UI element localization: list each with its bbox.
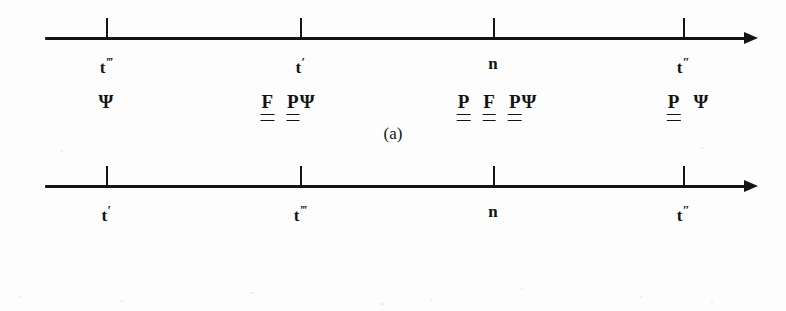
time-point-prime: ″ [682,54,689,69]
formula-symbol: Ψ [522,92,537,111]
operator-symbol-underlined: P [287,92,299,111]
axis-tick [683,18,685,38]
panel-caption-a: (a) [384,124,403,144]
time-point-prime: ′ [107,202,110,217]
axis-arrow-icon-a [744,32,758,44]
operator-symbol-underlined: P [458,92,470,111]
axis-tick [106,18,108,38]
operator-symbol-underlined: P [509,92,521,111]
time-point-prime: ‴ [299,202,306,217]
axis-tick [683,166,685,186]
panel-a: t‴t′nt″ ΨFPΨPFPΨPΨ (a) [0,0,786,155]
time-point-label: t″ [677,203,689,224]
time-point-label: t‴ [100,55,112,76]
formula-symbol: Ψ [300,92,315,111]
time-point-label: t″ [677,55,689,76]
operator-symbol-underlined: F [261,92,273,111]
time-point-label: t‴ [294,203,306,224]
formula-row: Ψ [99,92,114,111]
time-point-base: n [488,54,497,73]
formula-symbol: Ψ [693,92,708,111]
axis-tick [300,18,302,38]
time-point-label: n [488,203,497,220]
time-point-prime: ‴ [105,54,112,69]
formula-row: PFPΨ [458,92,537,111]
formula-symbol: Ψ [99,92,114,111]
axis-tick [106,166,108,186]
operator-symbol-underlined: P [668,92,680,111]
timeline-axis-a [45,37,745,40]
time-point-label: n [488,55,497,72]
operator-symbol-underlined: F [483,92,495,111]
axis-tick [493,18,495,38]
axis-tick [300,166,302,186]
timeline-figure: t‴t′nt″ ΨFPΨPFPΨPΨ (a) t′t‴nt″ FPΨΨPFPΨP… [0,0,786,311]
formula-row: PΨ [668,92,708,111]
timeline-axis-b [45,185,745,188]
time-point-base: n [488,202,497,221]
formula-row: FPΨ [261,92,314,111]
time-point-prime: ′ [301,54,304,69]
time-point-prime: ″ [682,202,689,217]
axis-arrow-icon-b [744,180,758,192]
axis-tick [493,166,495,186]
time-point-label: t′ [296,55,305,76]
panel-b: t′t‴nt″ FPΨΨPFPΨPΨ (b) [0,152,786,311]
time-point-label: t′ [102,203,111,224]
